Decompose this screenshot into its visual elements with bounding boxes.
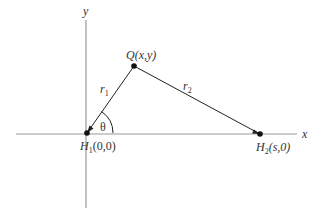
point-q-label: Q(x,y)	[126, 48, 156, 62]
segment-r2-label: r2	[183, 79, 192, 95]
point-q	[131, 63, 137, 69]
diagram-canvas: x y θ Q(x,y) H1(0,0) H2(s,0) r1 r2	[0, 0, 326, 217]
point-h1-label: H1(0,0)	[79, 139, 116, 155]
segment-r1	[87, 66, 134, 133]
coordinate-diagram: x y θ Q(x,y) H1(0,0) H2(s,0) r1 r2	[0, 0, 326, 217]
point-h2	[257, 131, 263, 137]
segment-r2	[134, 66, 260, 134]
x-axis-label: x	[301, 127, 308, 141]
point-h1	[84, 130, 90, 136]
segment-r1-label: r1	[100, 82, 109, 98]
angle-theta-label: θ	[100, 120, 106, 134]
point-h2-label: H2(s,0)	[255, 140, 290, 156]
y-axis-label: y	[82, 4, 89, 18]
